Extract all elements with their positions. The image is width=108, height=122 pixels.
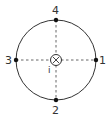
point-1-dot	[94, 58, 98, 62]
point-2-label: 2	[52, 104, 59, 117]
point-3-label: 3	[5, 54, 12, 67]
current-label: i	[48, 65, 51, 75]
field-diagram: i 1 2 3 4	[0, 0, 108, 122]
point-2-dot	[54, 98, 58, 102]
point-4-label: 4	[52, 4, 59, 17]
point-4-dot	[54, 18, 58, 22]
point-1-label: 1	[99, 54, 106, 67]
point-3-dot	[14, 58, 18, 62]
